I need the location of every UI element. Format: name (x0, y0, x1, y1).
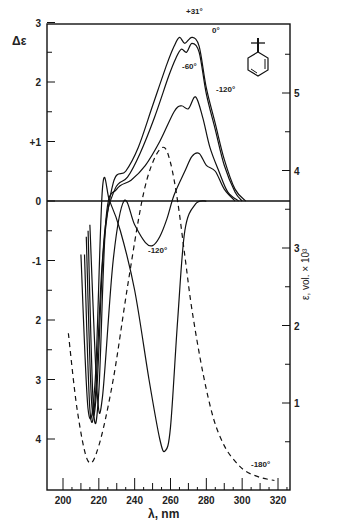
svg-text:-60°: -60° (182, 62, 197, 71)
axis-ticks (47, 23, 290, 491)
svg-text:-120°: -120° (148, 246, 167, 255)
svg-text:240: 240 (126, 495, 143, 506)
svg-text:3: 3 (35, 18, 41, 29)
svg-text:4: 4 (35, 434, 41, 445)
svg-text:0: 0 (35, 196, 41, 207)
svg-text:2: 2 (35, 77, 41, 88)
svg-text:-180°: -180° (251, 460, 270, 469)
plot-frame (47, 24, 290, 490)
svg-text:280: 280 (198, 495, 215, 506)
svg-text:4: 4 (294, 166, 300, 177)
curve-annotations: +31°0°-60°-120°-120°-180° (148, 7, 270, 469)
curve--60- (88, 97, 239, 424)
tick-labels: 32+10-123412345200220240260280300320 (30, 18, 300, 507)
x-axis-label: λ, nm (148, 507, 179, 521)
svg-text:260: 260 (162, 495, 179, 506)
curve-0- (86, 43, 242, 416)
svg-text:220: 220 (90, 495, 107, 506)
svg-text:2: 2 (35, 315, 41, 326)
svg-text:0°: 0° (212, 26, 220, 35)
svg-text:-120°: -120° (216, 85, 235, 94)
svg-text:3: 3 (35, 375, 41, 386)
y-axis-label-right: ε, vol. × 10³ (300, 249, 311, 300)
svg-text:5: 5 (294, 88, 300, 99)
svg-text:+31°: +31° (186, 7, 203, 16)
svg-text:320: 320 (270, 495, 287, 506)
svg-text:2: 2 (294, 321, 300, 332)
spectrum-curves (68, 37, 274, 480)
svg-text:300: 300 (234, 495, 251, 506)
molecule-structure-icon (248, 38, 268, 76)
svg-text:-1: -1 (32, 256, 41, 267)
y-axis-label-left: Δε (12, 34, 26, 48)
svg-text:1: 1 (294, 398, 300, 409)
svg-text:200: 200 (55, 495, 72, 506)
curve--31- (85, 37, 246, 422)
svg-text:+1: +1 (30, 137, 42, 148)
cd-spectrum-chart: 32+10-123412345200220240260280300320 +31… (0, 0, 343, 532)
